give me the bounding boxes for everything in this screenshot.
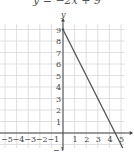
data-point: [62, 28, 64, 30]
y-tick-label: 1: [56, 118, 61, 127]
x-tick-label: −5: [1, 135, 13, 144]
y-tick-label: 4: [56, 83, 61, 92]
x-tick-label: 3: [96, 135, 101, 144]
x-tick-label: 2: [84, 135, 89, 144]
y-tick-label: 8: [56, 37, 61, 46]
data-line: [63, 30, 123, 148]
x-tick-label: 1: [73, 135, 78, 144]
y-tick-label: 3: [56, 95, 61, 104]
x-tick-label: −1: [47, 135, 59, 144]
y-tick-label: 2: [56, 106, 61, 115]
x-tick-label: −2: [36, 135, 48, 144]
y-tick-label: 7: [56, 49, 61, 58]
x-tick-label: 4: [107, 135, 112, 144]
y-tick-label: 5: [56, 72, 61, 81]
x-axis-arrow-icon: [130, 131, 133, 135]
y-tick-label: 6: [56, 60, 61, 69]
y-axis-label: y: [60, 10, 66, 19]
coordinate-plane: xy−5−4−3−2−112345−1123456789: [0, 0, 134, 151]
y-tick-label: 9: [56, 26, 61, 35]
x-tick-label: −3: [24, 135, 36, 144]
x-tick-label: −4: [13, 135, 25, 144]
y-tick-label: −1: [53, 146, 65, 152]
